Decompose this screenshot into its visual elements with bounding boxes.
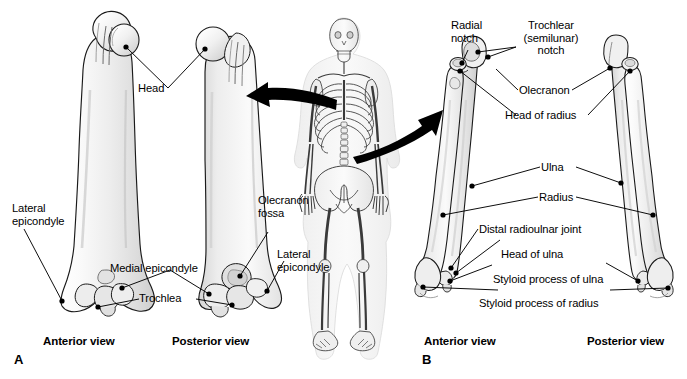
anatomy-figure: Head Lateral epicondyle Medial epicondyl… xyxy=(0,0,687,379)
label-trochlear-notch: Trochlear (semilunar) notch xyxy=(506,19,596,57)
label-head-of-radius: Head of radius xyxy=(505,109,576,122)
label-olecranon-fossa: Olecranon fossa xyxy=(258,194,309,219)
label-lateral-epicondyle-posterior: Lateral epicondyle xyxy=(277,248,330,273)
label-radial-notch: Radial notch xyxy=(451,19,482,44)
label-trochlea: Trochlea xyxy=(139,292,181,305)
panel-a-posterior-view-caption: Posterior view xyxy=(172,335,249,348)
panel-a-identifier: A xyxy=(14,354,23,367)
panel-b-anterior-view-caption: Anterior view xyxy=(424,335,496,348)
figure-artwork xyxy=(0,0,687,379)
label-radius: Radius xyxy=(539,191,573,204)
label-styloid-process-of-ulna: Styloid process of ulna xyxy=(493,273,603,286)
forearm-posterior xyxy=(604,35,673,298)
label-head: Head xyxy=(138,82,164,95)
panel-b-identifier: B xyxy=(422,354,431,367)
label-head-of-ulna: Head of ulna xyxy=(501,248,563,261)
label-distal-radioulnar-joint: Distal radioulnar joint xyxy=(479,223,581,236)
label-olecranon: Olecranon xyxy=(519,84,570,97)
panel-b-posterior-view-caption: Posterior view xyxy=(587,335,664,348)
label-lateral-epicondyle-anterior: Lateral epicondyle xyxy=(12,202,65,227)
humerus-posterior xyxy=(196,27,282,317)
panel-a-anterior-view-caption: Anterior view xyxy=(43,335,115,348)
label-styloid-process-of-radius: Styloid process of radius xyxy=(479,297,598,310)
skeleton-figure xyxy=(294,18,399,359)
label-medial-epicondyle: Medial epicondyle xyxy=(110,262,198,275)
label-ulna: Ulna xyxy=(541,161,564,174)
